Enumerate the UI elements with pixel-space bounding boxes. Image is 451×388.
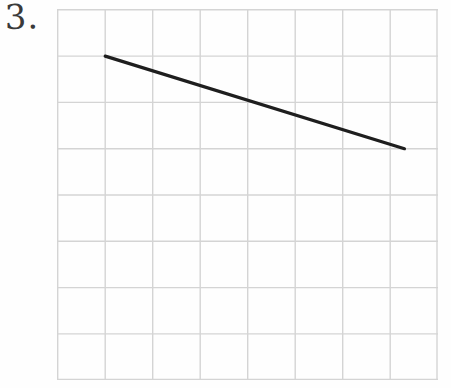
- problem-number-label: 3.: [4, 0, 53, 40]
- grid-lines: [57, 9, 438, 380]
- graph-figure: [57, 9, 438, 380]
- worksheet-page: 3.: [0, 0, 451, 388]
